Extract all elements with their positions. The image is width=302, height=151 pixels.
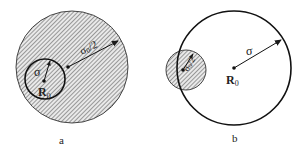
inner-radius-label: σ [34,65,41,79]
outer-radius-label: σ [246,44,253,58]
panel-b: σ0/2 σ R0 b [166,11,291,144]
caption-b: b [232,132,238,144]
outer-radius-arrow [234,40,281,68]
caption-a: a [59,134,64,146]
center-label: R0 [226,73,239,88]
panel-a: σ R0 σ0/2 a [16,11,128,146]
figure: σ R0 σ0/2 a σ0/2 σ R0 b [0,0,302,151]
